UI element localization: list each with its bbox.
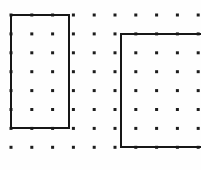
lattice-dot-r8-c6	[114, 146, 117, 149]
lattice-dot-r4-c6	[114, 70, 117, 73]
lattice-dot-r3-c8	[155, 51, 158, 54]
lattice-dot-r1-c4	[72, 14, 75, 17]
lattice-dot-r4-c5	[93, 70, 96, 73]
lattice-dot-r3-c6	[114, 51, 117, 54]
lattice-dot-r8-c5	[93, 146, 96, 149]
lattice-dot-r1-c6	[114, 14, 117, 17]
lattice-dot-r2-c5	[93, 32, 96, 35]
lattice-dot-r7-c7	[134, 127, 137, 130]
lattice-dot-r6-c3	[51, 108, 54, 111]
lattice-dot-r5-c2	[30, 89, 33, 92]
lattice-dot-r6-c5	[93, 108, 96, 111]
lattice-dot-r8-c3	[51, 146, 54, 149]
lattice-dot-r7-c10	[197, 127, 200, 130]
lattice-dot-r3-c2	[30, 51, 33, 54]
lattice-dot-r3-c4	[72, 51, 75, 54]
lattice-dot-r1-c5	[93, 14, 96, 17]
lattice-dot-r6-c9	[176, 108, 179, 111]
lattice-dot-r3-c9	[176, 51, 179, 54]
lattice-dot-r4-c4	[72, 70, 75, 73]
lattice-dot-r3-c7	[134, 51, 137, 54]
lattice-dot-r5-c4	[72, 89, 75, 92]
rectangle-right	[121, 34, 201, 147]
lattice-dot-r8-c2	[30, 146, 33, 149]
lattice-dot-r1-c7	[134, 14, 137, 17]
lattice-figure	[0, 0, 201, 170]
lattice-dot-r4-c10	[197, 70, 200, 73]
rectangle-left	[11, 15, 69, 128]
lattice-dot-r3-c3	[51, 51, 54, 54]
lattice-dot-r6-c4	[72, 108, 75, 111]
lattice-dot-r4-c7	[134, 70, 137, 73]
lattice-dot-r1-c10	[197, 14, 200, 17]
lattice-dot-r2-c4	[72, 32, 75, 35]
lattice-canvas	[0, 0, 201, 170]
lattice-dot-r7-c6	[114, 127, 117, 130]
lattice-dot-r8-c4	[72, 146, 75, 149]
lattice-dot-r7-c9	[176, 127, 179, 130]
lattice-dot-r5-c3	[51, 89, 54, 92]
lattice-dot-r5-c9	[176, 89, 179, 92]
lattice-dot-r4-c8	[155, 70, 158, 73]
lattice-dot-r3-c10	[197, 51, 200, 54]
lattice-dot-r7-c8	[155, 127, 158, 130]
lattice-dot-r1-c9	[176, 14, 179, 17]
lattice-dot-r2-c6	[114, 32, 117, 35]
lattice-dot-r2-c3	[51, 32, 54, 35]
lattice-dot-r8-c1	[10, 146, 13, 149]
lattice-dot-r7-c5	[93, 127, 96, 130]
lattice-dot-r4-c2	[30, 70, 33, 73]
lattice-dot-r5-c6	[114, 89, 117, 92]
lattice-dot-r5-c7	[134, 89, 137, 92]
lattice-dot-r7-c4	[72, 127, 75, 130]
lattice-dot-r5-c8	[155, 89, 158, 92]
lattice-dot-r4-c9	[176, 70, 179, 73]
lattice-dot-r1-c8	[155, 14, 158, 17]
lattice-dot-r5-c10	[197, 89, 200, 92]
lattice-dot-r3-c5	[93, 51, 96, 54]
lattice-dot-r6-c10	[197, 108, 200, 111]
lattice-dot-r5-c5	[93, 89, 96, 92]
lattice-dot-r6-c8	[155, 108, 158, 111]
lattice-dot-r4-c3	[51, 70, 54, 73]
lattice-dot-r2-c2	[30, 32, 33, 35]
lattice-dot-r6-c2	[30, 108, 33, 111]
lattice-dot-r6-c6	[114, 108, 117, 111]
lattice-dot-r6-c7	[134, 108, 137, 111]
shape-layer	[11, 15, 201, 147]
